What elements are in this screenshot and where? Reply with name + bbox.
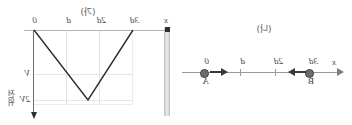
graph-tick-label-2d: 2d xyxy=(97,15,106,25)
graph-tick-label-3d: 3d xyxy=(130,15,139,25)
physics-figure: (나) x 0 d 2d 3d A B (가) xyxy=(0,0,352,125)
tick-label-d: d xyxy=(241,56,246,66)
panel-na: (나) x 0 d 2d 3d A B xyxy=(176,0,352,125)
tick-mark-2d xyxy=(275,69,276,76)
panel-ga: (가) 0 d 2d 3d x xyxy=(0,0,176,125)
number-line-arrow-icon xyxy=(337,68,344,76)
tick-label-2d: 2d xyxy=(274,56,283,66)
graph-axis-label-x: x xyxy=(164,15,168,25)
graph-tick-label-0: 0 xyxy=(33,15,38,25)
tick-label-0: 0 xyxy=(205,56,210,66)
panel-na-caption: (나) xyxy=(176,22,352,35)
potential-curve xyxy=(24,28,170,118)
tick-mark-d xyxy=(240,69,241,76)
panel-ga-caption: (가) xyxy=(0,5,176,18)
particle-b-label: B xyxy=(308,76,314,86)
graph-tick-label-V: V xyxy=(25,68,31,78)
tick-label-3d: 3d xyxy=(309,56,318,66)
particle-a-label: A xyxy=(203,76,210,86)
graph-tick-label-2V: 2V xyxy=(20,94,30,104)
graph-y-axis-title: 전위 xyxy=(6,90,17,106)
graph-tick-label-d: d xyxy=(67,15,72,25)
axis-label-x: x xyxy=(332,57,336,67)
potential-plot: 0 d 2d 3d x V 2V 전위 xyxy=(24,28,170,118)
